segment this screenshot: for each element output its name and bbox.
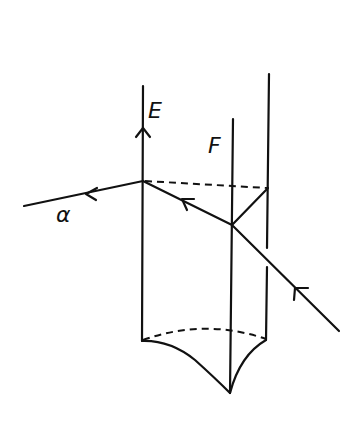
label-f: F [208, 133, 221, 158]
cusp-right-curve [230, 340, 266, 393]
edge-line-f [230, 119, 233, 393]
edge-line-right-lower [266, 267, 267, 340]
label-alpha: α [56, 202, 71, 227]
cusp-left-curve [142, 341, 230, 393]
edge-line-e [142, 86, 143, 341]
label-e: E [148, 98, 162, 123]
ray-diagram: E F α [0, 0, 362, 424]
arrow-left-icon [86, 188, 97, 200]
dashed-bottom-arc [143, 329, 266, 340]
ray-reflected [232, 188, 268, 225]
ray-alpha [24, 181, 143, 206]
ray-incoming [232, 225, 339, 331]
dashed-top-edge [145, 181, 267, 188]
edge-line-right-upper [267, 74, 269, 248]
ray-middle [143, 181, 232, 225]
